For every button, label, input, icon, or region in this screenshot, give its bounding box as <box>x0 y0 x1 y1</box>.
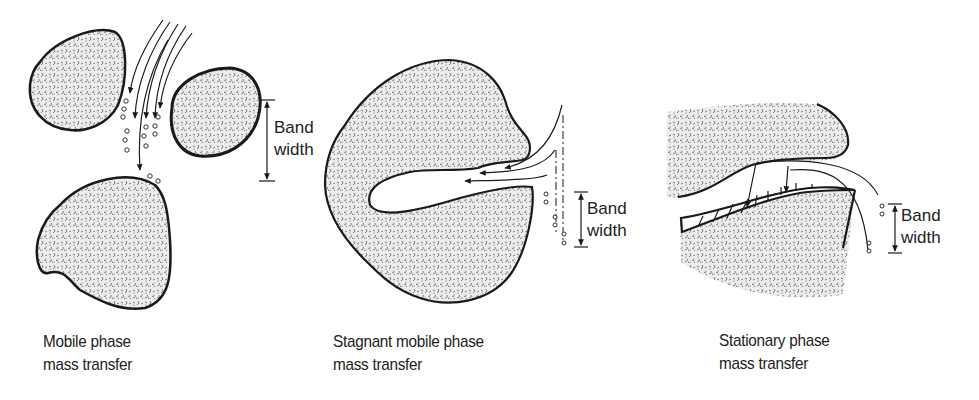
caption-mobile-phase: Mobile phase mass transfer <box>43 330 132 376</box>
streamline-dashes <box>556 115 563 240</box>
caption-stationary-phase: Stationary phase mass transfer <box>719 329 830 375</box>
caption-line2: mass transfer <box>43 353 132 376</box>
caption-line1: Stationary phase <box>719 329 830 352</box>
band-width-bracket <box>888 204 902 253</box>
particle-lower <box>680 188 855 298</box>
caption-line1: Mobile phase <box>43 330 132 353</box>
band-label-line2: width <box>901 227 941 249</box>
particle-right <box>171 68 260 156</box>
particle-bottom <box>37 178 171 309</box>
band-label-line2: width <box>587 220 627 242</box>
band-width-bracket <box>574 192 588 247</box>
band-width-bracket <box>259 100 275 181</box>
panel-stagnant-mobile-phase <box>325 60 588 303</box>
solute-molecules <box>121 99 160 183</box>
panel-stationary-phase <box>667 103 902 297</box>
caption-line2: mass transfer <box>719 352 830 375</box>
particle-top-left <box>30 30 125 130</box>
band-label-line1: Band <box>901 205 941 227</box>
band-label-line1: Band <box>274 117 314 139</box>
particle-upper <box>667 103 848 198</box>
caption-stagnant-mobile-phase: Stagnant mobile phase mass transfer <box>333 330 484 376</box>
band-width-label-stagnant: Band width <box>587 198 627 242</box>
band-width-label-mobile: Band width <box>274 117 314 161</box>
caption-line1: Stagnant mobile phase <box>333 330 484 353</box>
band-label-line1: Band <box>587 198 627 220</box>
band-width-label-stationary: Band width <box>901 205 941 249</box>
caption-line2: mass transfer <box>333 353 484 376</box>
diagram-canvas <box>0 0 979 400</box>
panel-mobile-phase <box>30 20 275 309</box>
solute-molecules <box>867 204 884 253</box>
band-label-line2: width <box>274 139 314 161</box>
particle-porous <box>325 60 533 303</box>
